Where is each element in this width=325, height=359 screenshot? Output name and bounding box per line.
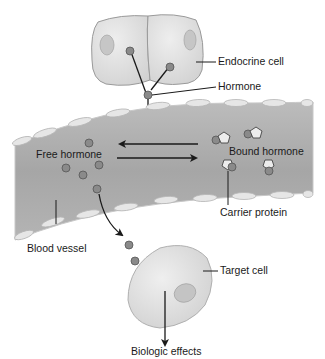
free-hormone-molecule — [95, 161, 103, 169]
label-target-cell: Target cell — [220, 264, 268, 276]
label-blood-vessel: Blood vessel — [27, 242, 87, 254]
hormone-transport-diagram: Endocrine cell Hormone Free hormone Boun… — [0, 0, 325, 359]
hormone-molecule — [166, 63, 174, 71]
label-carrier-protein: Carrier protein — [220, 206, 287, 218]
hormone-molecule — [126, 47, 134, 55]
free-hormone-molecule — [93, 185, 101, 193]
endocrine-cell-right — [147, 15, 203, 85]
free-hormone-molecule — [62, 164, 70, 172]
nucleus-left — [100, 35, 114, 55]
endocrine-cell-left — [92, 16, 150, 86]
label-endocrine-cell: Endocrine cell — [218, 55, 284, 67]
endocrine-cells — [92, 15, 204, 86]
free-hormone-molecule — [85, 139, 93, 147]
label-hormone: Hormone — [218, 80, 261, 92]
target-cell — [128, 246, 212, 345]
hormone-molecule — [144, 91, 152, 99]
free-hormone-molecule — [79, 171, 87, 179]
target-cell-body — [128, 246, 212, 328]
label-free-hormone: Free hormone — [36, 148, 102, 160]
label-bound-hormone: Bound hormone — [229, 145, 304, 157]
hormone-molecule — [125, 241, 133, 249]
nucleus-right — [184, 30, 196, 50]
label-biologic-effects: Biologic effects — [131, 345, 201, 357]
hormone-molecule — [131, 257, 139, 265]
